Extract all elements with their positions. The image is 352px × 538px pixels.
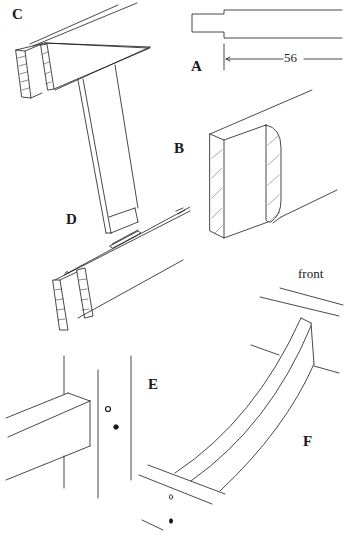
label-e: E bbox=[148, 376, 158, 393]
front-annotation: front bbox=[298, 266, 323, 282]
label-d: D bbox=[66, 211, 77, 228]
joinery-diagram: C A 56 B D E F front bbox=[0, 0, 352, 538]
panel-a-drawing bbox=[192, 10, 342, 70]
panel-e-drawing bbox=[6, 356, 131, 498]
label-b: B bbox=[174, 140, 184, 157]
label-f: F bbox=[303, 433, 312, 450]
panel-f-drawing bbox=[139, 288, 343, 530]
label-c: C bbox=[12, 6, 23, 23]
label-a: A bbox=[191, 58, 202, 75]
panel-c-drawing bbox=[16, 3, 150, 233]
dimension-56: 56 bbox=[284, 50, 297, 66]
panel-b-drawing bbox=[210, 90, 337, 238]
